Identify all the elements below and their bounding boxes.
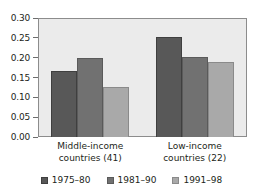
category-label-line: countries (41) <box>38 153 143 165</box>
category-label: Low-incomecountries (22) <box>143 141 248 167</box>
bar[interactable] <box>51 71 77 137</box>
legend-swatch-icon <box>107 177 114 184</box>
bar-group <box>38 18 143 137</box>
category-label-line: Low-income <box>143 141 248 153</box>
chart-legend: 1975–801981–901991–98 <box>0 172 263 188</box>
bar[interactable] <box>208 62 234 137</box>
plot-area <box>38 18 247 137</box>
category-label-line: countries (22) <box>143 153 248 165</box>
y-axis-tick: 0.15 <box>0 72 38 84</box>
y-axis-tick: 0.25 <box>0 32 38 44</box>
y-axis-tick-label: 0.15 <box>11 72 30 84</box>
legend-item[interactable]: 1991–98 <box>172 175 222 185</box>
bar-group-bars <box>143 18 248 137</box>
bar-chart: 0.300.250.200.150.100.050.00 Middle-inco… <box>0 0 263 194</box>
category-axis-labels: Middle-incomecountries (41)Low-incomecou… <box>38 141 247 167</box>
y-axis-tick: 0.10 <box>0 91 38 103</box>
y-axis-tick-label: 0.00 <box>11 131 30 143</box>
y-axis-tick-label: 0.25 <box>11 32 30 44</box>
bar[interactable] <box>182 57 208 137</box>
legend-swatch-icon <box>41 177 48 184</box>
legend-item[interactable]: 1981–90 <box>107 175 157 185</box>
y-axis: 0.300.250.200.150.100.050.00 <box>0 12 38 143</box>
y-axis-tick-label: 0.10 <box>11 91 30 103</box>
bar-group-bars <box>38 18 143 137</box>
bar[interactable] <box>77 58 103 137</box>
bar[interactable] <box>103 87 129 137</box>
legend-label: 1981–90 <box>118 175 157 185</box>
legend-label: 1975–80 <box>52 175 91 185</box>
bar-groups <box>38 18 247 137</box>
bar[interactable] <box>156 37 182 137</box>
y-axis-tick-label: 0.30 <box>11 12 30 24</box>
legend-swatch-icon <box>172 177 179 184</box>
y-axis-tick-label: 0.20 <box>11 52 30 64</box>
bar-group <box>143 18 248 137</box>
y-axis-tick: 0.20 <box>0 52 38 64</box>
y-axis-tick: 0.00 <box>0 131 38 143</box>
category-label-line: Middle-income <box>38 141 143 153</box>
y-axis-tick: 0.30 <box>0 12 38 24</box>
category-label: Middle-incomecountries (41) <box>38 141 143 167</box>
legend-label: 1991–98 <box>183 175 222 185</box>
y-axis-tick-label: 0.05 <box>11 111 30 123</box>
y-axis-tick: 0.05 <box>0 111 38 123</box>
legend-item[interactable]: 1975–80 <box>41 175 91 185</box>
